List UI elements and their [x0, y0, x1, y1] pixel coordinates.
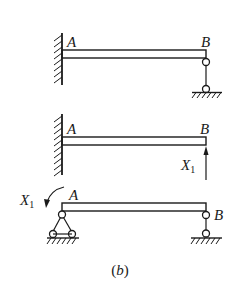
panel-simply-supported: A B X1	[19, 187, 223, 244]
figure-caption: (b)	[111, 262, 129, 279]
link-support-icon	[192, 59, 222, 99]
beam	[62, 203, 206, 211]
label-x1: X1	[19, 192, 34, 210]
label-a: A	[66, 34, 77, 50]
fixed-wall-icon	[54, 33, 62, 85]
beam	[62, 137, 206, 145]
panel-original-structure: A B	[54, 33, 222, 98]
beam	[62, 50, 206, 58]
label-b: B	[214, 207, 223, 223]
panel-cantilever: A B X1	[54, 114, 209, 180]
pin-support-icon	[47, 211, 79, 244]
label-a: A	[66, 121, 77, 137]
label-b: B	[200, 121, 209, 137]
fixed-wall-icon	[54, 114, 62, 176]
label-a: A	[68, 187, 79, 203]
force-arrow-up-icon	[204, 146, 209, 180]
moment-arrow-icon	[44, 187, 64, 208]
label-x1: X1	[180, 157, 195, 175]
structural-diagram: A B A B X1	[0, 0, 240, 308]
label-b: B	[201, 34, 210, 50]
